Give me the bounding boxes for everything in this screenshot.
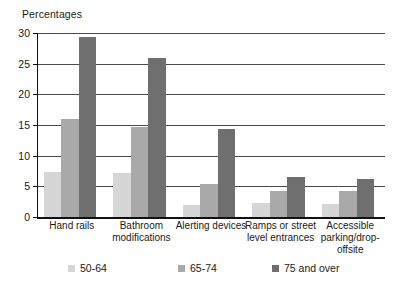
legend-swatch-icon (178, 265, 185, 272)
legend-item[interactable]: 50-64 (68, 262, 107, 274)
legend-item[interactable]: 65-74 (178, 262, 217, 274)
bar (339, 191, 357, 217)
bar (113, 173, 131, 217)
bar (287, 177, 305, 217)
y-axis-title: Percentages (22, 8, 82, 20)
y-axis-tick-label: 30 (18, 28, 30, 39)
chart-legend: 50-6465-7475 and over (0, 262, 397, 282)
bar-group (177, 33, 247, 217)
bar-group (38, 33, 108, 217)
bar (218, 129, 236, 217)
x-axis-tick-label: Accessible parking/drop- offsite (307, 220, 393, 256)
legend-swatch-icon (272, 265, 279, 272)
bar (61, 119, 79, 217)
bars-layer (38, 33, 385, 217)
bar-group (316, 33, 386, 217)
bar (44, 172, 62, 217)
bar (200, 184, 218, 217)
y-axis-tick-label: 10 (18, 150, 30, 161)
bar-chart: Percentages 051015202530 Hand railsBathr… (0, 0, 397, 288)
bar (148, 58, 166, 217)
legend-swatch-icon (68, 265, 75, 272)
bar (131, 127, 149, 217)
y-axis-tick-label: 15 (18, 120, 30, 131)
bar (79, 37, 97, 217)
y-axis-tick-label: 25 (18, 58, 30, 69)
bar-group (247, 33, 317, 217)
bar (322, 204, 340, 217)
bar (270, 191, 288, 217)
legend-label: 75 and over (284, 262, 339, 274)
bar (183, 205, 201, 217)
plot-area: 051015202530 (37, 33, 385, 218)
x-axis-tick-labels: Hand railsBathroom modificationsAlerting… (37, 220, 385, 264)
y-axis-tick-label: 5 (24, 181, 30, 192)
bar (252, 203, 270, 217)
legend-label: 65-74 (190, 262, 217, 274)
y-axis-tick-label: 20 (18, 89, 30, 100)
legend-label: 50-64 (80, 262, 107, 274)
bar (357, 179, 375, 217)
x-axis-line (37, 217, 385, 219)
legend-item[interactable]: 75 and over (272, 262, 339, 274)
bar-group (108, 33, 178, 217)
